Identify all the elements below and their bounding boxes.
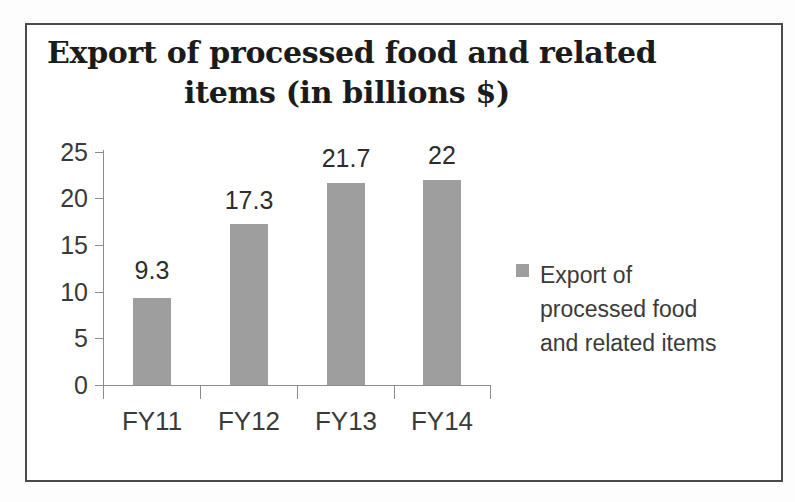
y-tick-label-10: 10	[28, 280, 88, 305]
chart-title: Export of processed food and related ite…	[47, 33, 647, 112]
y-tick-label-20: 20	[28, 186, 88, 211]
y-tick-mark-10	[95, 292, 103, 293]
y-tick-mark-25	[95, 152, 103, 153]
bar-value-fy12: 17.3	[204, 188, 294, 213]
x-axis-label-fy13: FY13	[298, 408, 394, 434]
x-tick-mark-2	[297, 385, 298, 399]
y-tick-mark-20	[95, 198, 103, 199]
x-tick-mark-4	[490, 385, 491, 399]
x-axis-label-fy12: FY12	[201, 408, 297, 434]
bar-fy13[interactable]	[327, 183, 365, 385]
x-tick-mark-1	[200, 385, 201, 399]
legend-swatch-icon	[516, 264, 529, 277]
bar-value-fy11: 9.3	[107, 258, 197, 283]
x-tick-mark-3	[394, 385, 395, 399]
legend-entry-label: Export of processed food and related ite…	[540, 258, 772, 360]
y-tick-label-25: 25	[28, 140, 88, 165]
y-tick-label-0: 0	[28, 373, 88, 398]
y-tick-label-5: 5	[28, 326, 88, 351]
chart-title-line-1: Export of processed food and related	[47, 33, 647, 73]
x-axis-label-fy11: FY11	[104, 408, 200, 434]
bar-fy11[interactable]	[133, 298, 171, 385]
bar-value-fy14: 22	[397, 143, 487, 168]
y-tick-mark-0	[95, 385, 103, 386]
chart-screenshot: Export of processed food and related ite…	[0, 0, 795, 502]
chart-title-line-2: items (in billions $)	[47, 73, 647, 113]
bar-fy12[interactable]	[230, 224, 268, 385]
x-tick-mark-0	[103, 385, 104, 399]
bar-fy14[interactable]	[423, 180, 461, 385]
legend-label-line-1: Export of	[540, 258, 772, 292]
bar-value-fy13: 21.7	[301, 146, 391, 171]
y-tick-mark-5	[95, 338, 103, 339]
x-axis-label-fy14: FY14	[394, 408, 490, 434]
legend-label-line-3: and related items	[540, 326, 772, 360]
y-axis-labels: 25 20 15 10 5 0	[28, 0, 88, 502]
y-tick-label-15: 15	[28, 233, 88, 258]
legend-label-line-2: processed food	[540, 292, 772, 326]
y-tick-mark-15	[95, 245, 103, 246]
